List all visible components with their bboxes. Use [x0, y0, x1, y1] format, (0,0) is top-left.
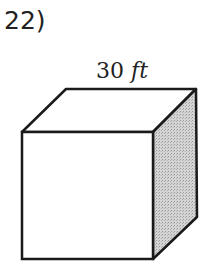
cube-front-face	[22, 132, 153, 259]
cube-diagram	[0, 0, 209, 273]
